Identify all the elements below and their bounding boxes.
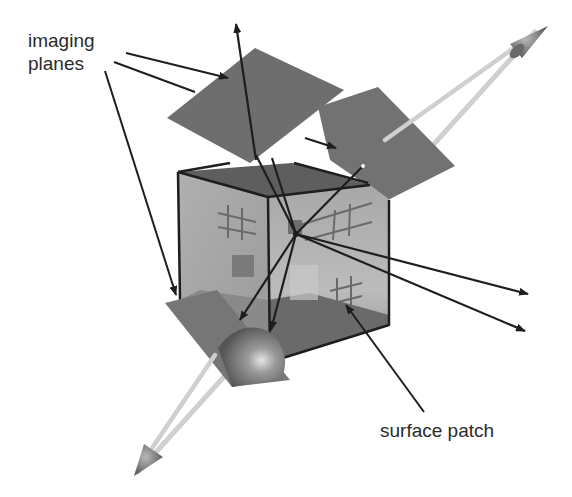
ray-exit-dot (361, 164, 365, 168)
room-window-light (290, 265, 318, 300)
center-point-marker (293, 231, 299, 237)
imaging-planes-label: imaging planes (28, 29, 95, 75)
imaging-planes-label-line1: imaging (28, 29, 95, 52)
view-axis-lower-shaft (146, 355, 215, 457)
room-box-object (232, 255, 254, 277)
surface-patch-label: surface patch (380, 419, 494, 442)
imaging-planes-label-line2: planes (28, 52, 95, 75)
view-axis-upper-shaft (385, 35, 532, 140)
imaging-plane-top-left (167, 48, 344, 163)
leader-imaging-to-top-plane (126, 53, 228, 78)
leader-imaging-to-bottom-plane (105, 71, 176, 295)
